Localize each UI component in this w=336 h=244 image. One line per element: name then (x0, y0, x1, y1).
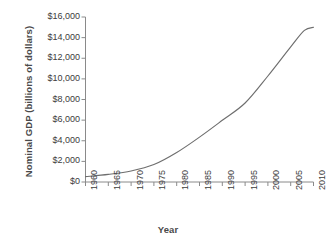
gdp-line-chart: Nominal GDP (billions of dollars) $0$2,0… (0, 0, 336, 244)
x-axis-tick-label: 1990 (227, 170, 236, 190)
x-axis-tick-label: 2005 (295, 170, 304, 190)
x-axis-title: Year (0, 224, 336, 235)
x-axis-tick-label: 1975 (158, 170, 167, 190)
x-axis-tick-label: 1960 (90, 170, 99, 190)
x-axis-tick-labels: 1960196519701975198019851990199520002005… (0, 0, 336, 244)
x-axis-tick-label: 2000 (272, 170, 281, 190)
x-axis-tick-label: 1985 (204, 170, 213, 190)
x-axis-tick-label: 1980 (181, 170, 190, 190)
x-axis-tick-label: 1965 (113, 170, 122, 190)
x-axis-tick-label: 1970 (136, 170, 145, 190)
x-axis-tick-label: 1995 (250, 170, 259, 190)
x-axis-tick-label: 2010 (318, 170, 327, 190)
